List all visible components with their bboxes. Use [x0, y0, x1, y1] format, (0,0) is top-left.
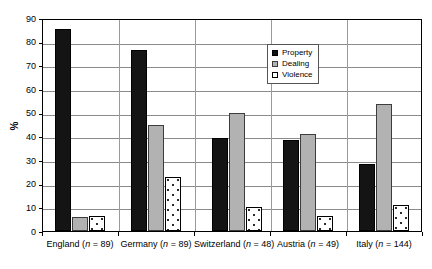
- x-tick-mark: [194, 232, 195, 236]
- x-tick-mark: [346, 232, 347, 236]
- y-tick-label: 90: [14, 15, 36, 24]
- bar-germany-property: [131, 50, 147, 231]
- bar-germany-dealing: [148, 125, 164, 232]
- n-symbol: n: [311, 239, 316, 249]
- x-tick-mark: [270, 232, 271, 236]
- bar-england-property: [55, 29, 71, 231]
- n-symbol: n: [85, 239, 90, 249]
- x-axis-label-england: England (n = 89): [42, 239, 118, 250]
- x-axis-label-austria: Austria (n = 49): [270, 239, 346, 250]
- bar-switzerland-property: [212, 138, 228, 231]
- legend-label-violence: Violence: [282, 71, 313, 79]
- x-tick-mark: [118, 232, 119, 236]
- chart-legend: Property Dealing Violence: [267, 44, 319, 84]
- legend-item-violence: Violence: [272, 70, 313, 80]
- legend-item-dealing: Dealing: [272, 59, 313, 69]
- bar-chart-figure: % 0102030405060708090 England (n = 89)Ge…: [0, 0, 432, 269]
- bar-switzerland-violence: [246, 207, 262, 231]
- bar-italy-violence: [393, 205, 409, 231]
- legend-label-property: Property: [282, 49, 312, 57]
- plot-area: [42, 19, 422, 232]
- y-axis-title: %: [7, 119, 23, 133]
- y-tick-label: 0: [14, 228, 36, 237]
- x-tick-mark: [42, 232, 43, 236]
- group-separator: [347, 20, 348, 231]
- n-symbol: n: [246, 239, 251, 249]
- legend-label-dealing: Dealing: [282, 60, 309, 68]
- group-separator: [195, 20, 196, 231]
- bar-austria-violence: [317, 216, 333, 231]
- bar-italy-property: [359, 164, 375, 231]
- bar-italy-dealing: [376, 104, 392, 231]
- bar-germany-violence: [165, 177, 181, 231]
- y-tick-label: 50: [14, 109, 36, 118]
- legend-swatch-property-icon: [272, 50, 278, 56]
- y-tick-label: 60: [14, 86, 36, 95]
- bar-austria-dealing: [300, 134, 316, 231]
- gridline: [43, 44, 421, 45]
- x-axis-label-switzerland: Switzerland (n = 48): [194, 239, 270, 250]
- x-axis-label-italy: Italy (n = 144): [346, 239, 422, 250]
- x-axis-label-germany: Germany (n = 89): [118, 239, 194, 250]
- n-symbol: n: [163, 239, 168, 249]
- gridline: [43, 67, 421, 68]
- y-tick-label: 30: [14, 157, 36, 166]
- legend-swatch-violence-icon: [272, 72, 278, 78]
- bar-england-dealing: [72, 217, 88, 231]
- y-tick-label: 80: [14, 38, 36, 47]
- gridline: [43, 91, 421, 92]
- bar-austria-property: [283, 140, 299, 231]
- x-tick-mark: [422, 232, 423, 236]
- y-tick-label: 40: [14, 133, 36, 142]
- y-tick-label: 10: [14, 204, 36, 213]
- y-tick-label: 20: [14, 180, 36, 189]
- legend-swatch-dealing-icon: [272, 61, 278, 67]
- legend-item-property: Property: [272, 48, 313, 58]
- n-symbol: n: [378, 239, 383, 249]
- y-tick-label: 70: [14, 62, 36, 71]
- group-separator: [119, 20, 120, 231]
- bar-switzerland-dealing: [229, 113, 245, 231]
- bar-england-violence: [89, 216, 105, 231]
